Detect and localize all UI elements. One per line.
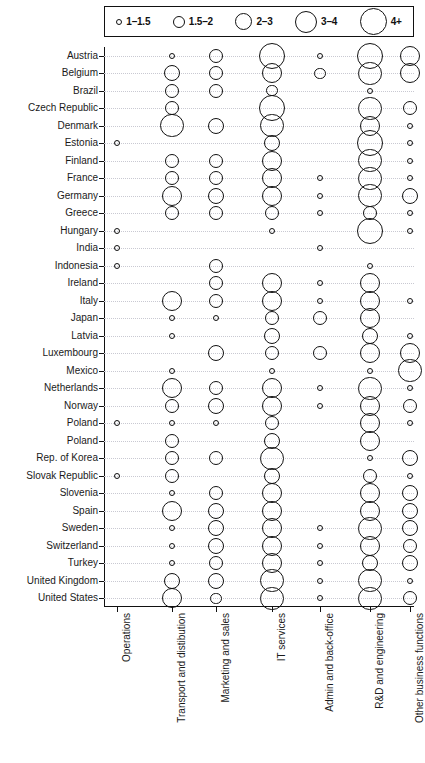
data-bubble [165,469,179,483]
data-bubble [209,294,223,308]
data-bubble [269,228,275,234]
data-bubble [360,536,380,556]
data-bubble [209,66,223,80]
data-bubble [213,315,219,321]
data-bubble [402,450,418,466]
data-bubble [169,490,175,496]
legend-item-label: 2–3 [256,16,272,27]
data-bubble [313,346,327,360]
data-bubble [367,88,373,94]
legend-item: 1–1.5 [116,16,150,27]
y-axis-label: Japan [71,313,98,323]
legend-item-label: 4+ [391,16,402,27]
y-axis-label: Czech Republic [28,103,98,113]
y-axis-tick [99,353,104,354]
y-axis-label: United Kingdom [27,576,98,586]
data-bubble [114,263,120,269]
data-bubble [209,556,223,570]
data-bubble [403,101,417,115]
y-axis-tick [99,598,104,599]
data-bubble [407,473,413,479]
data-bubble [360,431,380,451]
y-axis-tick [99,178,104,179]
data-bubble [169,333,175,339]
data-bubble [208,573,224,589]
legend-bubble-icon [116,19,122,25]
y-axis-tick [99,143,104,144]
data-bubble [407,210,413,216]
data-bubble [407,420,413,426]
y-axis-label: Slovenia [60,488,98,498]
legend-item-label: 1–1.5 [126,16,150,27]
y-axis-label: Poland [67,436,98,446]
data-bubble [165,399,179,413]
data-bubble [165,206,179,220]
data-bubble [407,158,413,164]
data-bubble [402,555,418,571]
data-bubble [367,263,373,269]
data-bubble [114,473,120,479]
y-axis-label: Denmark [57,121,98,131]
data-bubble [358,184,381,207]
data-bubble [363,469,377,483]
data-bubble [407,333,413,339]
data-bubble [407,175,413,181]
data-bubble [317,245,323,251]
y-axis-tick [99,213,104,214]
y-axis-tick [99,318,104,319]
data-bubble [313,311,327,325]
data-bubble [209,154,223,168]
y-axis-label: Austria [67,51,98,61]
y-axis-label: Norway [64,401,98,411]
data-bubble [162,186,182,206]
y-axis-tick [99,301,104,302]
y-axis-tick [99,406,104,407]
y-axis-labels: AustriaBelgiumBrazilCzech RepublicDenmar… [0,47,98,607]
data-bubble [402,188,418,204]
y-axis-tick [99,458,104,459]
data-bubble [269,368,275,374]
y-axis-label: Poland [67,418,98,428]
data-bubble [209,259,223,273]
data-bubble [262,291,282,311]
y-axis-label: Spain [72,506,98,516]
data-bubble [208,520,224,536]
y-axis-line [104,47,105,607]
data-bubble [317,385,323,391]
y-axis-label: Italy [80,296,98,306]
data-bubble [210,593,221,604]
data-bubble [165,154,179,168]
y-axis-label: Latvia [71,331,98,341]
gridline [104,248,414,249]
y-axis-tick [99,161,104,162]
x-axis-label: IT services [277,613,287,661]
data-bubble [165,101,179,115]
y-axis-tick [99,371,104,372]
data-bubble [402,503,418,519]
y-axis-tick [99,56,104,57]
data-bubble [362,328,378,344]
data-bubble [407,298,413,304]
data-bubble [358,62,381,85]
y-axis-tick [99,423,104,424]
data-bubble [360,308,380,328]
y-axis-tick [99,581,104,582]
data-bubble [208,345,224,361]
y-axis-label: Ireland [67,278,98,288]
y-axis-label: Brazil [73,86,98,96]
data-bubble [169,53,175,59]
data-bubble [213,420,219,426]
legend-item-label: 1.5–2 [189,16,213,27]
y-axis-tick [99,266,104,267]
legend-item: 1.5–2 [173,16,213,28]
y-axis-tick [99,73,104,74]
data-bubble [367,368,373,374]
legend-item: 3–4 [295,11,337,33]
data-bubble [407,385,413,391]
y-axis-label: Switzerland [46,541,98,551]
data-bubble [407,228,413,234]
data-bubble [317,560,323,566]
data-bubble [360,343,380,363]
y-axis-label: India [76,243,98,253]
